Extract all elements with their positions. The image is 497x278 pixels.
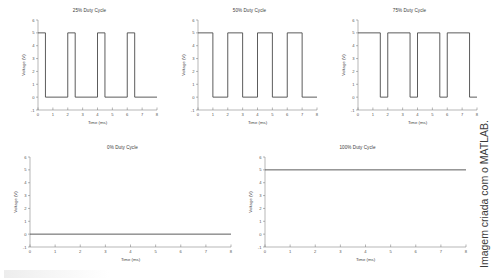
plot-panel-100-percent: -10123456012345678Time (ms)Voltage (V) 1…	[245, 143, 470, 273]
plot-title: 75% Duty Cycle	[338, 8, 481, 13]
y-tick-label: 5	[352, 30, 355, 35]
y-tick-label: 6	[24, 155, 27, 160]
plot-panel-75-percent: -10123456012345678Time (ms)Voltage (V) 7…	[338, 6, 481, 136]
y-tick-label: 3	[24, 193, 27, 198]
plot-title: 50% Duty Cycle	[178, 8, 321, 13]
y-tick-label: 4	[352, 43, 355, 48]
y-tick-label: 3	[32, 56, 35, 61]
y-axis-title: Voltage (V)	[13, 191, 18, 213]
x-tick-label: 7	[141, 112, 144, 117]
x-tick-label: 4	[416, 112, 419, 117]
y-axis-title: Voltage (V)	[181, 54, 186, 76]
x-tick-label: 0	[357, 112, 360, 117]
x-tick-label: 1	[289, 249, 292, 254]
y-axis-title: Voltage (V)	[248, 191, 253, 213]
y-tick-label: 6	[259, 155, 262, 160]
x-tick-label: 7	[461, 112, 464, 117]
waveform-line	[198, 33, 317, 97]
plot-canvas: -10123456012345678Time (ms)Voltage (V)	[18, 6, 161, 136]
y-tick-label: 6	[32, 18, 35, 23]
y-tick-label: 4	[259, 180, 262, 185]
x-tick-label: 8	[465, 249, 468, 254]
x-tick-label: 5	[389, 249, 392, 254]
plot-canvas: -10123456012345678Time (ms)Voltage (V)	[10, 143, 235, 273]
y-tick-label: 3	[259, 193, 262, 198]
page-artifact	[4, 270, 154, 278]
x-tick-label: 5	[111, 112, 114, 117]
x-tick-label: 7	[301, 112, 304, 117]
y-tick-label: -1	[31, 108, 35, 113]
x-tick-label: 8	[316, 112, 319, 117]
y-tick-label: 1	[32, 82, 35, 87]
y-tick-label: -1	[23, 245, 27, 250]
x-tick-label: 2	[314, 249, 317, 254]
x-tick-label: 6	[446, 112, 449, 117]
x-tick-label: 3	[104, 249, 107, 254]
y-tick-label: 2	[352, 69, 355, 74]
y-tick-label: -1	[191, 108, 195, 113]
x-tick-label: 6	[415, 249, 418, 254]
y-tick-label: 3	[192, 56, 195, 61]
x-tick-label: 3	[339, 249, 342, 254]
x-tick-label: 4	[256, 112, 259, 117]
x-tick-label: 5	[271, 112, 274, 117]
plot-title: 0% Duty Cycle	[10, 145, 235, 150]
x-tick-label: 4	[96, 112, 99, 117]
x-tick-label: 2	[387, 112, 390, 117]
y-tick-label: 2	[32, 69, 35, 74]
y-tick-label: -1	[351, 108, 355, 113]
y-tick-label: -1	[258, 245, 262, 250]
x-tick-label: 0	[37, 112, 40, 117]
figure-credit: Imagem criada com o MATLAB.	[471, 110, 497, 278]
x-axis-title: Time (ms)	[121, 257, 141, 262]
x-tick-label: 2	[67, 112, 70, 117]
plot-canvas: -10123456012345678Time (ms)Voltage (V)	[245, 143, 470, 273]
x-tick-label: 5	[154, 249, 157, 254]
y-tick-label: 2	[24, 206, 27, 211]
x-tick-label: 1	[212, 112, 215, 117]
y-tick-label: 1	[192, 82, 195, 87]
x-tick-label: 7	[440, 249, 443, 254]
figure-credit-text: Imagem criada com o MATLAB.	[478, 120, 490, 268]
plot-canvas: -10123456012345678Time (ms)Voltage (V)	[338, 6, 481, 136]
x-axis-title: Time (ms)	[408, 120, 428, 125]
y-tick-label: 1	[24, 219, 27, 224]
x-tick-label: 6	[180, 249, 183, 254]
y-tick-label: 5	[192, 30, 195, 35]
x-tick-label: 2	[79, 249, 82, 254]
x-tick-label: 3	[81, 112, 84, 117]
x-axis-title: Time (ms)	[88, 120, 108, 125]
plot-panel-25-percent: -10123456012345678Time (ms)Voltage (V) 2…	[18, 6, 161, 136]
y-tick-label: 5	[32, 30, 35, 35]
y-tick-label: 0	[32, 95, 35, 100]
y-tick-label: 5	[24, 167, 27, 172]
y-axis-title: Voltage (V)	[341, 54, 346, 76]
x-tick-label: 8	[156, 112, 159, 117]
x-tick-label: 5	[431, 112, 434, 117]
x-tick-label: 3	[401, 112, 404, 117]
y-tick-label: 5	[259, 167, 262, 172]
x-tick-label: 2	[227, 112, 230, 117]
y-tick-label: 0	[24, 232, 27, 237]
y-tick-label: 4	[192, 43, 195, 48]
x-tick-label: 0	[264, 249, 267, 254]
x-tick-label: 3	[241, 112, 244, 117]
y-tick-label: 4	[32, 43, 35, 48]
y-tick-label: 2	[192, 69, 195, 74]
y-tick-label: 6	[352, 18, 355, 23]
y-tick-label: 1	[352, 82, 355, 87]
plot-panel-50-percent: -10123456012345678Time (ms)Voltage (V) 5…	[178, 6, 321, 136]
x-tick-label: 1	[54, 249, 57, 254]
y-tick-label: 3	[352, 56, 355, 61]
y-tick-label: 4	[24, 180, 27, 185]
x-axis-title: Time (ms)	[356, 257, 376, 262]
waveform-line	[38, 33, 157, 97]
plot-title: 25% Duty Cycle	[18, 8, 161, 13]
y-tick-label: 0	[192, 95, 195, 100]
x-tick-label: 1	[372, 112, 375, 117]
y-tick-label: 2	[259, 206, 262, 211]
x-tick-label: 0	[29, 249, 32, 254]
x-tick-label: 4	[364, 249, 367, 254]
waveform-line	[358, 33, 477, 97]
y-tick-label: 6	[192, 18, 195, 23]
